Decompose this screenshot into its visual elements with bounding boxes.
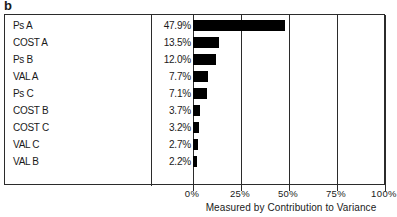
row-category-label: Ps B [13, 51, 33, 68]
table-row: Ps A47.9% [5, 17, 386, 34]
table-row: COST C3.2% [5, 119, 386, 136]
bar-cell [193, 68, 385, 85]
x-axis-caption: Measured by Contribution to Variance [188, 202, 394, 214]
bar [193, 88, 207, 99]
chart-rows: Ps A47.9%COST A13.5%Ps B12.0%VAL A7.7%Ps… [5, 17, 386, 170]
row-value-label: 7.1% [155, 85, 191, 102]
bar-cell [193, 17, 385, 34]
bar [193, 37, 219, 48]
row-value-label: 12.0% [155, 51, 191, 68]
bar [193, 20, 285, 31]
row-value-label: 7.7% [155, 68, 191, 85]
chart-frame: Ps A47.9%COST A13.5%Ps B12.0%VAL A7.7%Ps… [4, 14, 385, 185]
row-value-label: 3.2% [155, 119, 191, 136]
panel-letter-label: b [4, 0, 12, 13]
table-row: VAL C2.7% [5, 136, 386, 153]
row-category-label: VAL B [13, 153, 39, 170]
row-category-label: COST C [13, 119, 49, 136]
row-category-label: Ps A [13, 17, 32, 34]
row-category-label: Ps C [13, 85, 33, 102]
x-axis-tick-labels: 0%25%50%75%100% [4, 188, 385, 201]
row-category-label: COST A [13, 34, 48, 51]
row-value-label: 3.7% [155, 102, 191, 119]
bar-cell [193, 85, 385, 102]
table-row: VAL A7.7% [5, 68, 386, 85]
row-value-label: 2.2% [155, 153, 191, 170]
table-row: VAL B2.2% [5, 153, 386, 170]
table-row: Ps C7.1% [5, 85, 386, 102]
x-axis-tick-label: 50% [278, 188, 298, 200]
row-value-label: 47.9% [155, 17, 191, 34]
x-axis-tick-label: 100% [371, 188, 397, 200]
bar-cell [193, 51, 385, 68]
bar-cell [193, 34, 385, 51]
bar-cell [193, 136, 385, 153]
bar [193, 54, 216, 65]
row-value-label: 2.7% [155, 136, 191, 153]
bar [193, 71, 208, 82]
bar-cell [193, 102, 385, 119]
table-row: COST A13.5% [5, 34, 386, 51]
row-category-label: VAL A [13, 68, 38, 85]
bar [193, 122, 199, 133]
row-value-label: 13.5% [155, 34, 191, 51]
x-axis-tick-label: 0% [185, 188, 200, 200]
bar [193, 156, 197, 167]
bar [193, 139, 198, 150]
table-row: COST B3.7% [5, 102, 386, 119]
bar-cell [193, 119, 385, 136]
table-row: Ps B12.0% [5, 51, 386, 68]
row-category-label: COST B [13, 102, 48, 119]
bar [193, 105, 200, 116]
bar-cell [193, 153, 385, 170]
x-axis-tick-label: 25% [230, 188, 250, 200]
row-category-label: VAL C [13, 136, 39, 153]
x-axis-tick-label: 75% [326, 188, 346, 200]
